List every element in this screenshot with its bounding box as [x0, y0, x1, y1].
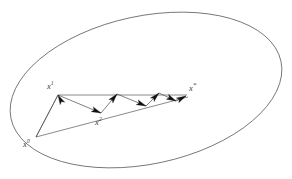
level-set-ellipse [0, 0, 292, 179]
point-label-x1: x1 [47, 82, 54, 91]
point-label-x0: x0 [23, 140, 30, 149]
point-label-superscript-x1: 1 [51, 80, 54, 86]
point-label-superscript-x0: 0 [27, 138, 30, 144]
step-1 [36, 95, 58, 137]
line-x0-to-xstar [36, 97, 188, 137]
point-label-superscript-x2: 2 [99, 116, 102, 122]
guide-line-group [36, 95, 188, 137]
arrowhead-step-4 [136, 100, 147, 108]
level-set-group [0, 0, 292, 179]
point-label-x2: x2 [95, 118, 102, 127]
arrowhead-step-2 [91, 107, 102, 115]
figure-canvas: x0x1x2x* [0, 0, 292, 179]
point-label-xstar: x* [189, 84, 196, 93]
arrowhead-step-1 [56, 94, 65, 105]
point-label-superscript-xstar: * [193, 81, 197, 89]
diagram-svg [0, 0, 292, 179]
